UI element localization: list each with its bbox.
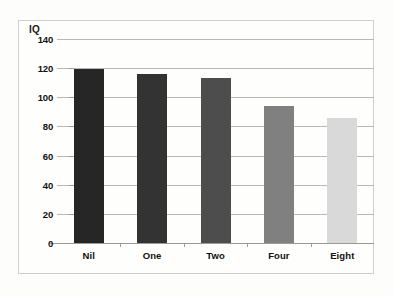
y-tick-mark	[69, 156, 74, 157]
y-tick-mark	[69, 126, 74, 127]
y-tick-label: 0	[19, 238, 53, 249]
y-tick-label: 100	[19, 92, 53, 103]
y-tick-label: 120	[19, 63, 53, 74]
y-tick-label: 80	[19, 121, 53, 132]
gridline	[57, 68, 374, 69]
y-tick-label: 20	[19, 208, 53, 219]
x-tick-label: Two	[206, 250, 225, 261]
y-tick-label: 40	[19, 179, 53, 190]
bar	[327, 118, 357, 243]
x-axis-line	[50, 243, 374, 244]
y-tick-mark	[69, 68, 74, 69]
y-axis-ticks: 020406080100120140	[17, 0, 53, 296]
y-tick-label: 140	[19, 33, 53, 44]
scan-artifact-text	[0, 0, 393, 16]
x-tick-label: Nil	[82, 250, 94, 261]
plot-area	[57, 68, 374, 243]
bar	[137, 74, 167, 243]
y-tick-mark	[69, 243, 74, 244]
x-tick-mark	[311, 243, 312, 247]
y-tick-mark	[69, 97, 74, 98]
y-tick-mark	[69, 185, 74, 186]
x-tick-mark	[120, 243, 121, 247]
y-tick-mark	[69, 214, 74, 215]
x-axis-labels: NilOneTwoFourEight	[57, 250, 374, 268]
x-tick-label: Four	[268, 250, 290, 261]
bar	[201, 78, 231, 243]
x-tick-mark	[184, 243, 185, 247]
bar	[74, 69, 104, 243]
bar	[264, 106, 294, 243]
y-tick-label: 60	[19, 150, 53, 161]
x-tick-mark	[247, 243, 248, 247]
gridline	[57, 39, 374, 40]
x-tick-label: Eight	[330, 250, 354, 261]
x-tick-label: One	[143, 250, 162, 261]
chart-screenshot: IQ 020406080100120140 NilOneTwoFourEight	[0, 0, 393, 296]
